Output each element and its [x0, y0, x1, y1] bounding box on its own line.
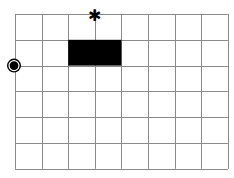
- grid-lines: [15, 14, 229, 170]
- game-board: ✱: [0, 0, 234, 178]
- player-marker-icon[interactable]: [7, 59, 21, 73]
- star-icon: ✱: [88, 6, 101, 25]
- wall-block: [68, 40, 121, 66]
